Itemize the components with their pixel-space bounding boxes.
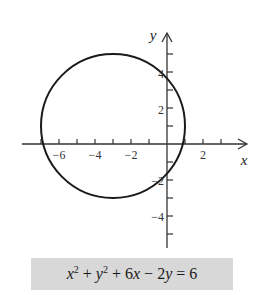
y-tick-label: 4 <box>158 67 164 81</box>
caption-var: y <box>96 266 103 283</box>
caption-op: + <box>79 266 96 283</box>
caption-op: = 6 <box>172 266 197 283</box>
x-tick-label: −6 <box>53 148 66 162</box>
caption-op: − 2 <box>140 266 165 283</box>
y-tick-label: 2 <box>158 103 164 117</box>
x-tick-label: −2 <box>125 148 138 162</box>
circle-graph: −6 −4 −2 2 4 2 −2 −4 x y <box>0 0 259 295</box>
x-tick-label: 2 <box>200 148 206 162</box>
x-ticks <box>41 139 221 144</box>
y-tick-label: −4 <box>151 210 164 224</box>
equation-caption: x2 + y2 + 6x − 2y = 6 <box>31 258 233 290</box>
caption-var: x <box>67 266 74 283</box>
x-axis-label: x <box>240 152 248 168</box>
caption-op: + 6 <box>108 266 133 283</box>
y-axis-label: y <box>148 27 157 43</box>
y-tick-label: −2 <box>151 174 164 188</box>
x-tick-label: −4 <box>89 148 102 162</box>
